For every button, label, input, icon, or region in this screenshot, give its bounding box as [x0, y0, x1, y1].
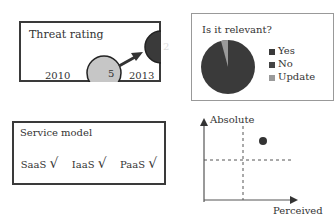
- check-icon: √: [98, 155, 107, 171]
- node-2013: [145, 31, 161, 63]
- node-2010: [87, 56, 121, 82]
- year-2010: 2010: [45, 70, 70, 81]
- node-2013-value: 2: [163, 41, 169, 52]
- relevance-title: Is it relevant?: [202, 24, 272, 35]
- relevance-panel: Is it relevant? Yes No Update: [191, 13, 334, 101]
- y-axis-arrow-icon: [200, 118, 208, 126]
- x-axis-label: Perceived: [273, 205, 323, 216]
- check-icon: √: [148, 155, 157, 171]
- legend-yes: Yes: [269, 44, 315, 57]
- threat-rating-panel: Threat rating 5 2 2010 2013: [19, 21, 161, 82]
- data-point: [259, 137, 267, 145]
- legend-no: No: [269, 57, 315, 70]
- year-2013: 2013: [129, 70, 154, 81]
- model-paas: PaaS √: [120, 155, 157, 171]
- check-icon: √: [50, 155, 59, 171]
- pie-chart: [201, 36, 261, 96]
- legend-update: Update: [269, 70, 315, 83]
- service-model-title: Service model: [20, 127, 92, 138]
- model-saas: SaaS √: [21, 155, 59, 171]
- y-axis-label: Absolute: [210, 114, 254, 125]
- model-iaas: IaaS √: [72, 155, 107, 171]
- service-model-list: SaaS √ IaaS √ PaaS √: [14, 155, 164, 171]
- node-2010-value: 5: [108, 68, 114, 79]
- x-axis-arrow-icon: [290, 196, 298, 204]
- service-model-panel: Service model SaaS √ IaaS √ PaaS √: [12, 121, 166, 185]
- pie-legend: Yes No Update: [269, 44, 315, 83]
